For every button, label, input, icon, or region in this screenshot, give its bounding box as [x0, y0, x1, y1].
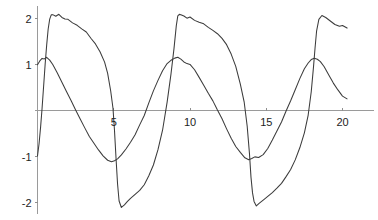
axes-group [35, 6, 374, 214]
plot-area [0, 0, 378, 220]
line-chart: 510152021-1-2 [0, 0, 378, 220]
y-tick-label-neg2: -2 [22, 197, 32, 208]
y-tick-label-1: 1 [25, 59, 31, 70]
y-tick-label-2: 2 [25, 13, 31, 24]
x-tick-label-5: 5 [111, 117, 117, 128]
x-tick-label-20: 20 [336, 117, 348, 128]
x-tick-label-10: 10 [184, 117, 196, 128]
y-tick-label-neg1: -1 [22, 151, 32, 162]
x-tick-label-15: 15 [260, 117, 272, 128]
